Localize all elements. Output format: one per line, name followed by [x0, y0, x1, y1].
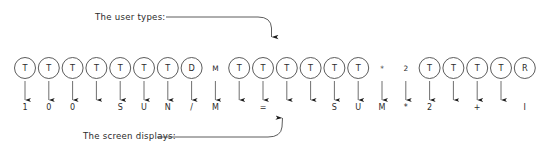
token-bottom-letter: *: [404, 103, 408, 112]
token-bottom-letter: =: [260, 103, 267, 112]
token-top-letter: M: [212, 64, 218, 73]
token-bottom-letter: 1: [22, 103, 27, 112]
token-top-letter: T: [355, 63, 362, 73]
token-bottom-letter: U: [141, 103, 147, 112]
token-arrow-group: [25, 81, 501, 100]
token-top-letter: T: [259, 63, 266, 73]
token-top-letter: R: [522, 63, 528, 73]
token-bottom-letter: I: [524, 103, 526, 112]
token-bottom-letter: /: [190, 103, 193, 112]
token-top-letter: *: [380, 64, 384, 73]
token-bottom-letter: U: [355, 103, 361, 112]
token-top-letter-group: TTTTTTTDMTTTTTT*2TTTTR: [21, 63, 527, 73]
token-top-letter: T: [283, 63, 290, 73]
token-top-letter: T: [140, 63, 147, 73]
token-top-letter: T: [164, 63, 171, 73]
token-top-letter: T: [117, 63, 124, 73]
token-top-letter: T: [450, 63, 457, 73]
token-top-letter: T: [307, 63, 314, 73]
user-types-label: The user types:: [95, 12, 166, 22]
token-bottom-letter: 0: [70, 103, 75, 112]
token-circle-group: [15, 58, 536, 79]
token-top-letter: T: [21, 63, 28, 73]
token-top-letter: T: [497, 63, 504, 73]
token-top-letter: T: [45, 63, 52, 73]
token-bottom-letter: N: [165, 103, 171, 112]
token-bottom-letter: +: [474, 103, 481, 112]
user-types-connector-line: [166, 17, 272, 37]
token-top-letter: T: [474, 63, 481, 73]
screen-displays-label: The screen displays:: [83, 131, 176, 141]
token-bottom-letter-group: 100SUN/M=SUM*2+I: [22, 103, 526, 112]
token-top-letter: T: [426, 63, 433, 73]
token-bottom-letter: 0: [46, 103, 51, 112]
token-bottom-letter: M: [212, 103, 219, 112]
token-top-letter: T: [331, 63, 338, 73]
token-top-letter: T: [69, 63, 76, 73]
diagram-canvas: TTTTTTTDMTTTTTT*2TTTTR 100SUN/M=SUM*2+I …: [0, 0, 549, 153]
token-bottom-letter: M: [379, 103, 386, 112]
token-bottom-letter: 2: [427, 103, 432, 112]
token-top-letter: 2: [403, 64, 408, 73]
token-top-letter: T: [93, 63, 100, 73]
token-bottom-letter: S: [118, 103, 123, 112]
token-bottom-letter: S: [332, 103, 337, 112]
token-top-letter: D: [188, 63, 194, 73]
token-top-letter: T: [236, 63, 243, 73]
